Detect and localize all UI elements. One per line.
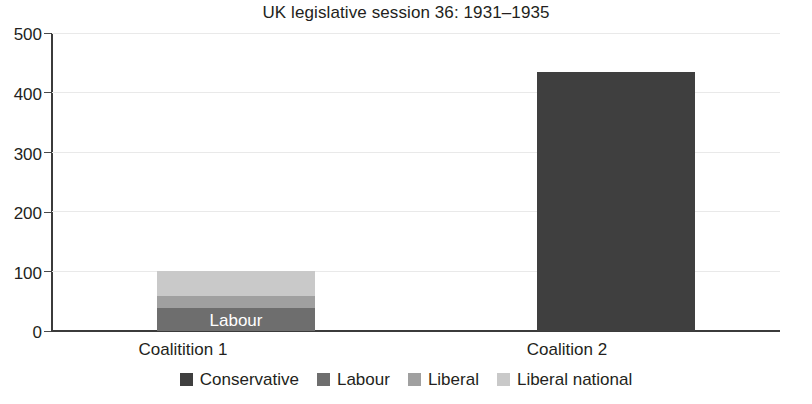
legend-label-liberal: Liberal: [428, 370, 479, 389]
legend-item-labour[interactable]: Labour: [317, 370, 390, 389]
legend-item-liberal[interactable]: Liberal: [408, 370, 479, 389]
legend-swatch-icon-liberal: [408, 373, 421, 386]
x-category-label-2: Coalition 2: [487, 340, 647, 360]
bar-segment-liberal-national[interactable]: [157, 271, 315, 296]
bar-segment-conservative[interactable]: [537, 72, 695, 331]
chart-title: UK legislative session 36: 1931–1935: [0, 2, 812, 24]
y-tick-label-100: 100: [0, 265, 42, 282]
y-tick-label-0: 0: [0, 324, 42, 341]
x-category-label-1: Coalitition 1: [103, 340, 263, 360]
legend: Conservative Labour Liberal Liberal nati…: [0, 370, 812, 389]
y-tick-label-200: 200: [0, 205, 42, 222]
legend-swatch-icon-labour: [317, 373, 330, 386]
y-axis: 500 400 300 200 100 0: [0, 0, 42, 404]
bar-segment-liberal[interactable]: [157, 296, 315, 308]
gridline-500: [52, 33, 780, 34]
bar-inline-label-labour: Labour: [157, 312, 315, 329]
y-tick-label-400: 400: [0, 86, 42, 103]
bar-segment-labour[interactable]: Labour: [157, 308, 315, 331]
legend-item-liberal-national[interactable]: Liberal national: [497, 370, 632, 389]
legend-item-conservative[interactable]: Conservative: [180, 370, 299, 389]
legend-swatch-icon-liberal-national: [497, 373, 510, 386]
legend-swatch-icon-conservative: [180, 373, 193, 386]
legend-label-conservative: Conservative: [200, 370, 299, 389]
y-tick-label-500: 500: [0, 26, 42, 43]
chart-container: UK legislative session 36: 1931–1935 500…: [0, 0, 812, 404]
y-tick-label-300: 300: [0, 146, 42, 163]
plot-area: Labour: [52, 33, 780, 331]
bar-coalition-2[interactable]: [537, 72, 695, 331]
bar-coalitition-1[interactable]: Labour: [157, 271, 315, 331]
legend-label-liberal-national: Liberal national: [517, 370, 632, 389]
legend-label-labour: Labour: [337, 370, 390, 389]
